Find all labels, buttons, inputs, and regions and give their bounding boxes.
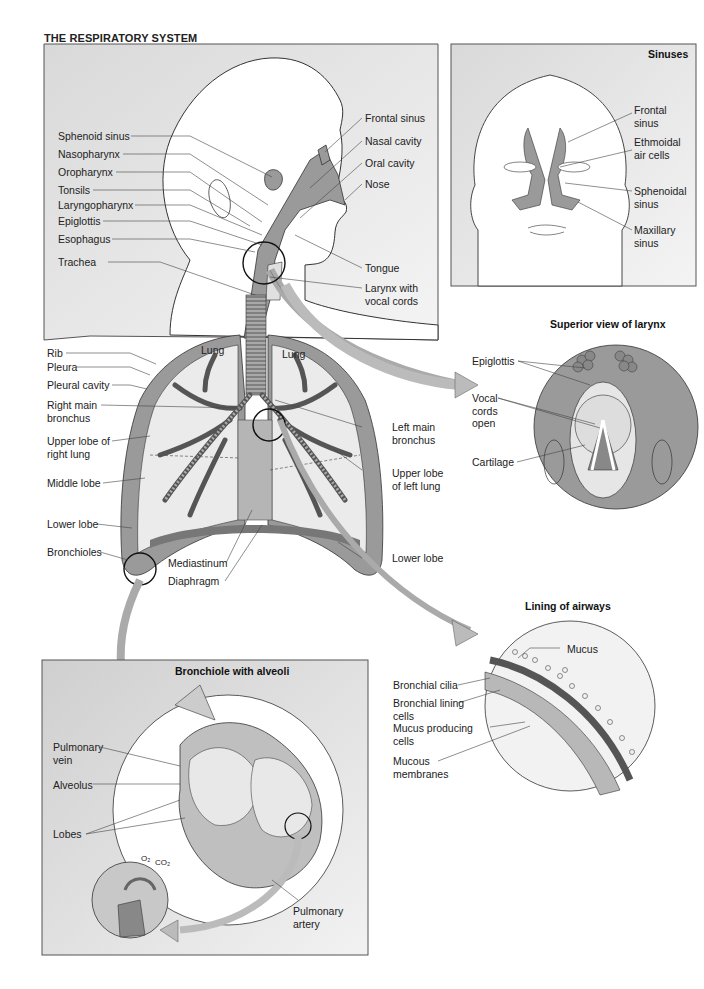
label-lower-lobe-right: Lower lobe — [47, 518, 98, 531]
label-mediastinum: Mediastinum — [168, 557, 228, 570]
label-oral-cavity: Oral cavity — [365, 157, 415, 170]
label-frontal-sinus: Frontal sinus — [365, 112, 425, 125]
label-lung-left: Lung — [282, 348, 305, 361]
label-bronchioles: Bronchioles — [47, 546, 102, 559]
label-rib: Rib — [47, 347, 63, 360]
label-lower-lobe-left: Lower lobe — [392, 552, 443, 565]
airways-heading: Lining of airways — [525, 600, 611, 612]
label-alveolus: Alveolus — [53, 779, 93, 792]
label-ethmoidal-air-cells: Ethmoidal air cells — [634, 136, 681, 161]
label-trachea: Trachea — [58, 256, 96, 269]
label-left-main-bronchus: Left main bronchus — [392, 421, 435, 446]
label-pulmonary-artery: Pulmonary artery — [293, 905, 343, 930]
label-larynx: Larynx with vocal cords — [365, 282, 418, 307]
label-frontal-sinus-face: Frontal sinus — [634, 104, 667, 129]
label-tongue: Tongue — [365, 262, 399, 275]
label-bronchial-cilia: Bronchial cilia — [393, 679, 458, 692]
label-nasal-cavity: Nasal cavity — [365, 135, 422, 148]
label-right-main-bronchus: Right main bronchus — [47, 399, 97, 424]
label-epiglottis-larynx: Epiglottis — [472, 355, 515, 368]
label-oropharynx: Oropharynx — [58, 166, 113, 179]
label-epiglottis: Epiglottis — [58, 215, 101, 228]
label-esophagus: Esophagus — [58, 233, 111, 246]
airways-diagram — [438, 621, 655, 795]
label-o2: O₂ — [141, 853, 150, 866]
alveoli-heading: Bronchiole with alveoli — [175, 665, 289, 677]
label-nose: Nose — [365, 178, 390, 191]
label-bronchial-lining-cells: Bronchial lining cells — [393, 697, 464, 722]
label-sphenoidal-sinus: Sphenoidal sinus — [634, 185, 687, 210]
label-lobes: Lobes — [53, 828, 82, 841]
sinuses-heading: Sinuses — [648, 48, 688, 60]
label-pleura: Pleura — [47, 361, 77, 374]
label-diaphragm: Diaphragm — [168, 575, 219, 588]
label-vocal-cords-open: Vocal cords open — [472, 392, 498, 430]
larynx-heading: Superior view of larynx — [550, 318, 666, 330]
label-middle-lobe: Middle lobe — [47, 477, 101, 490]
label-cartilage: Cartilage — [472, 456, 514, 469]
label-laryngopharynx: Laryngopharynx — [58, 199, 133, 212]
label-upper-lobe-left: Upper lobe of left lung — [392, 467, 443, 492]
label-pleural-cavity: Pleural cavity — [47, 379, 109, 392]
label-upper-lobe-right: Upper lobe of right lung — [47, 435, 110, 460]
label-tonsils: Tonsils — [58, 184, 90, 197]
label-co2: CO₂ — [155, 857, 170, 870]
label-nasopharynx: Nasopharynx — [58, 148, 120, 161]
label-maxillary-sinus: Maxillary sinus — [634, 224, 675, 249]
label-sphenoid-sinus: Sphenoid sinus — [58, 130, 130, 143]
label-mucus-producing-cells: Mucus producing cells — [393, 722, 473, 747]
label-mucus: Mucus — [567, 643, 598, 656]
label-mucous-membranes: Mucous membranes — [393, 755, 448, 780]
larynx-diagram — [498, 345, 698, 509]
sinuses-panel — [451, 44, 696, 286]
label-pulmonary-vein: Pulmonary vein — [53, 741, 103, 766]
label-lung-right: Lung — [201, 344, 224, 357]
